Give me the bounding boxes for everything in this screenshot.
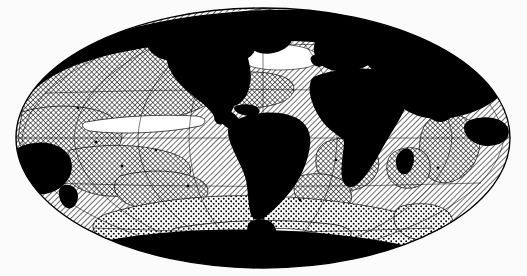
world-map-figure	[0, 0, 527, 276]
mollweide-world-map	[0, 0, 527, 276]
